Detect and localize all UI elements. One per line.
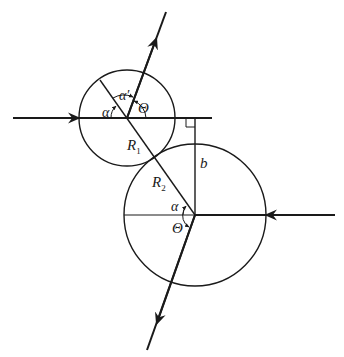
radius-label-1: R1 <box>126 137 141 156</box>
theta-arc-2 <box>183 210 189 227</box>
alpha-arc-1 <box>111 106 116 118</box>
right-angle-marker <box>186 118 195 127</box>
impact-parameter-label: b <box>200 155 208 171</box>
theta-label-1: Θ <box>138 100 149 116</box>
alpha-label-2: α <box>171 199 179 214</box>
collision-diagram: α α′ Θ R1 R2 b α Θ <box>0 0 344 357</box>
alpha-prime-label: α′ <box>119 88 130 103</box>
theta-label-2: Θ <box>172 220 183 236</box>
radius-label-2: R2 <box>151 174 166 193</box>
alpha-label-1: α <box>102 105 110 120</box>
